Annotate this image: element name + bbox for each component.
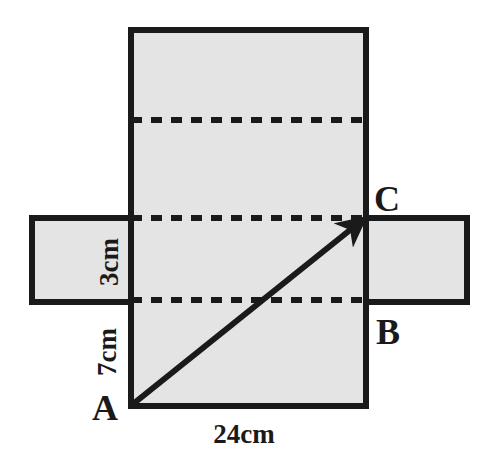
net-diagram-svg: A B C 24cm 3cm 7cm <box>0 0 490 468</box>
right-face <box>366 218 467 302</box>
dimension-label-bottom-width: 24cm <box>213 419 275 449</box>
vertex-label-b: B <box>376 312 400 352</box>
center-face <box>131 30 366 406</box>
dimension-label-depth: 3cm <box>94 238 124 286</box>
vertex-label-a: A <box>92 388 118 428</box>
dimension-label-left-height: 7cm <box>92 328 122 376</box>
vertex-label-c: C <box>374 179 400 219</box>
geometry-figure: A B C 24cm 3cm 7cm <box>0 0 490 468</box>
